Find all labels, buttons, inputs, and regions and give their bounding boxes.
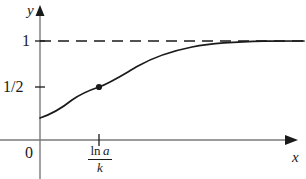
y-tick-label-1: 1 bbox=[22, 33, 30, 49]
fraction-numerator: ln a bbox=[88, 144, 111, 160]
x-tick-label-lna-over-k: ln a k bbox=[74, 144, 126, 174]
logistic-curve-path bbox=[40, 41, 304, 118]
y-tick-label-one-half: 1/2 bbox=[3, 79, 23, 95]
y-axis-arrowhead bbox=[36, 5, 45, 16]
inflection-point-marker bbox=[96, 84, 102, 90]
x-axis-label: x bbox=[292, 150, 299, 165]
ln-function-text: ln bbox=[90, 143, 100, 158]
a-variable-text: a bbox=[103, 143, 110, 158]
logistic-curve-figure: y x 1 1/2 0 ln a k bbox=[0, 0, 306, 179]
origin-label: 0 bbox=[25, 145, 33, 161]
fraction-denominator: k bbox=[88, 160, 111, 175]
x-axis-arrowhead bbox=[285, 135, 298, 145]
plot-canvas bbox=[0, 0, 306, 179]
fraction-lna-over-k: ln a k bbox=[88, 144, 111, 174]
y-axis-label: y bbox=[27, 3, 34, 18]
